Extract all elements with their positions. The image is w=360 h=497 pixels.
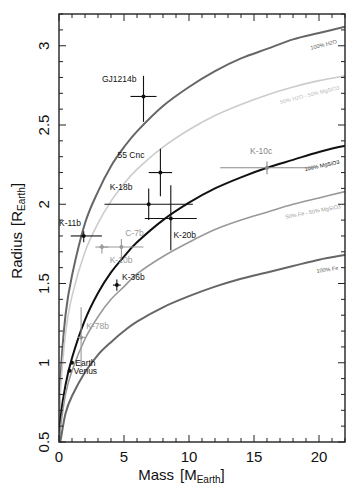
x-tick-label: 0 xyxy=(55,448,63,465)
point-marker xyxy=(119,245,123,249)
x-axis-unit: [MEarth] xyxy=(180,466,225,485)
point-marker xyxy=(158,171,162,175)
curve-label: 100% MgSiO3 xyxy=(304,159,340,172)
y-axis-label: Radius xyxy=(8,232,25,279)
curve-50-fe-50-mgsio3 xyxy=(59,192,345,446)
point-marker xyxy=(68,369,72,373)
data-point-k-18b: K-18b xyxy=(105,182,193,220)
point-marker xyxy=(265,166,269,170)
curve-100-mgsio3 xyxy=(59,146,345,446)
point-label: K-36b xyxy=(122,272,145,282)
point-marker xyxy=(147,202,151,206)
chart-canvas: 100% H2O50% H2O - 50% MgSiO3100% MgSiO35… xyxy=(0,0,360,497)
x-axis-title: Mass [MEarth] xyxy=(138,466,225,485)
point-label: C-7b xyxy=(125,228,144,238)
point-label: K-18b xyxy=(110,182,133,192)
mass-radius-chart: 100% H2O50% H2O - 50% MgSiO3100% MgSiO35… xyxy=(0,0,360,497)
point-label: 55 Cnc xyxy=(118,150,146,160)
data-point-k-20b: K-20b xyxy=(145,185,197,250)
point-marker xyxy=(115,283,119,287)
y-tick-label: 0.5 xyxy=(35,432,52,453)
x-axis-unit-sub: Earth xyxy=(197,474,221,485)
y-tick-label: 2 xyxy=(35,200,52,208)
point-label: K-10c xyxy=(250,146,273,156)
x-axis-label: Mass xyxy=(138,466,174,483)
x-axis-unit-base: M xyxy=(184,466,197,483)
point-marker xyxy=(70,361,74,365)
curve-label: 100% Fe xyxy=(316,265,339,274)
y-tick-label: 1.5 xyxy=(35,273,52,294)
point-marker xyxy=(169,217,173,221)
y-axis-unit-base: R xyxy=(8,211,25,222)
point-label: K-78b xyxy=(86,321,109,331)
curve-labels: 100% H2O50% H2O - 50% MgSiO3100% MgSiO35… xyxy=(279,38,341,274)
point-marker xyxy=(100,245,104,249)
curve-50-h2o-50-mgsio3 xyxy=(59,76,345,445)
point-marker xyxy=(82,234,86,238)
y-axis-title: Radius [REarth] xyxy=(8,183,27,279)
data-point-k-36b: K-36b xyxy=(113,272,145,290)
x-tick-label: 5 xyxy=(120,448,128,465)
point-label: K-20b xyxy=(173,230,196,240)
point-label: Venus xyxy=(73,366,97,376)
data-point-gj1214b: GJ1214b xyxy=(102,74,157,122)
x-tick-label: 20 xyxy=(311,448,328,465)
data-point-k-10c: K-10c xyxy=(220,146,314,175)
curve-label: 50% Fe - 50% MgSiO3 xyxy=(285,203,341,220)
point-marker xyxy=(142,94,146,98)
point-marker xyxy=(79,335,83,339)
point-label: GJ1214b xyxy=(102,74,137,84)
y-tick-label: 3 xyxy=(35,42,52,50)
x-tick-label: 10 xyxy=(181,448,198,465)
y-axis-unit: [REarth] xyxy=(8,183,27,226)
y-tick-label: 1 xyxy=(35,359,52,367)
curve-label: 100% H2O xyxy=(310,38,338,51)
y-tick-label: 2.5 xyxy=(35,115,52,136)
curve-100-fe xyxy=(59,255,345,445)
y-axis-unit-sub: Earth xyxy=(16,187,27,211)
point-label: K-10b xyxy=(110,255,133,265)
x-tick-label: 15 xyxy=(246,448,263,465)
